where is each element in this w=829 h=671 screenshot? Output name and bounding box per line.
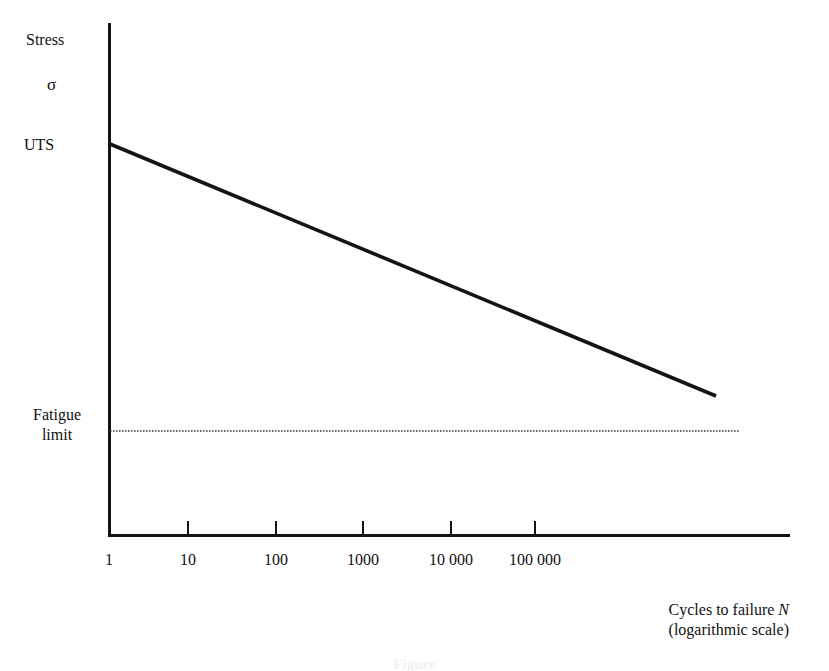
x-axis-tick-label-100: 100 (264, 550, 288, 570)
x-axis-caption-text: Cycles to failure (669, 601, 779, 618)
x-axis-caption-line2: (logarithmic scale) (669, 620, 789, 640)
y-axis-line (108, 23, 111, 537)
fatigue-label-line1: Fatigue (33, 406, 81, 423)
fatigue-label-line2: limit (21, 425, 93, 445)
x-axis-tick-label-10000: 10 000 (429, 550, 473, 570)
x-axis-tick-1 (108, 521, 110, 534)
y-axis-label-uts: UTS (24, 135, 54, 155)
y-axis-label-sigma: σ (47, 75, 56, 95)
x-axis-tick-label-1: 1 (105, 550, 113, 570)
sn-curve-line (110, 144, 716, 396)
y-axis-label-stress: Stress (26, 30, 64, 50)
x-axis-caption-symbol-n: N (778, 601, 789, 618)
x-axis-tick-label-1000: 1000 (347, 550, 379, 570)
x-axis-line (108, 534, 790, 537)
x-axis-caption: Cycles to failure N (logarithmic scale) (669, 600, 789, 640)
figure-caption: Figure (0, 655, 829, 671)
x-axis-tick-10 (187, 521, 189, 534)
figure-container: 1 10 100 1000 10 000 100 000 Stress σ UT… (0, 0, 829, 671)
x-axis-tick-100000 (534, 521, 536, 534)
x-axis-caption-line1: Cycles to failure N (669, 600, 789, 620)
plot-lines-layer (0, 0, 829, 671)
x-axis-tick-1000 (362, 521, 364, 534)
y-axis-label-fatigue-limit: Fatigue limit (21, 405, 93, 445)
x-axis-tick-100 (275, 521, 277, 534)
x-axis-tick-10000 (450, 521, 452, 534)
x-axis-tick-label-100000: 100 000 (509, 550, 561, 570)
x-axis-tick-label-10: 10 (180, 550, 196, 570)
